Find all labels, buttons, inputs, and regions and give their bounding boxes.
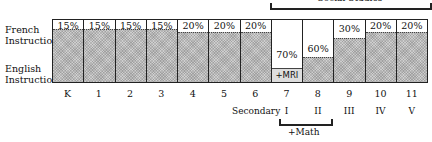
value-label: 60% (303, 43, 333, 54)
bar-column: 15% (53, 20, 84, 82)
value-label: 30% (334, 23, 364, 34)
secondary-label: Secondary (232, 106, 280, 117)
secondary-tick: III (334, 106, 365, 116)
value-label: 20% (178, 20, 208, 31)
math-bracket (279, 119, 333, 126)
value-label: 20% (241, 20, 271, 31)
value-label: 20% (366, 20, 396, 31)
value-label: 15% (84, 20, 114, 31)
english-segment (84, 29, 114, 82)
value-label: 20% (209, 20, 239, 31)
english-segment (397, 32, 427, 82)
x-tick: 3 (146, 88, 177, 99)
value-label: 15% (147, 20, 177, 31)
bar-column: 15% (147, 20, 178, 82)
english-label: English Instruction (5, 63, 51, 85)
x-tick: 2 (115, 88, 146, 99)
value-label: 15% (116, 20, 146, 31)
x-tick: 10 (365, 88, 396, 99)
value-label: 15% (53, 20, 83, 31)
bar-column: 30% (334, 20, 365, 82)
english-segment (303, 57, 333, 82)
secondary-tick: V (396, 106, 427, 116)
social-studies-bracket (270, 3, 432, 10)
english-segment (178, 32, 208, 82)
english-segment (366, 32, 396, 82)
x-tick: 7 (271, 88, 302, 99)
secondary-tick: IV (365, 106, 396, 116)
value-label: 70% (272, 49, 302, 60)
secondary-tick: II (302, 106, 333, 116)
x-tick: 4 (177, 88, 208, 99)
bar-column: 15% (116, 20, 147, 82)
x-tick: 5 (209, 88, 240, 99)
bar-column: 20% (366, 20, 397, 82)
english-segment (209, 32, 239, 82)
english-segment (334, 38, 364, 82)
english-segment (53, 29, 83, 82)
bar-column: 60% (303, 20, 334, 82)
bar-column: 20% (178, 20, 209, 82)
bar-column: 20% (397, 20, 427, 82)
english-segment (116, 29, 146, 82)
value-label: 20% (397, 20, 427, 31)
x-tick: 6 (240, 88, 271, 99)
english-segment (241, 32, 271, 82)
x-tick: 9 (334, 88, 365, 99)
bar-column: 15% (84, 20, 115, 82)
x-tick: 8 (302, 88, 333, 99)
bar-column: 20% (241, 20, 272, 82)
x-tick: K (52, 88, 83, 99)
social-studies-label: Social Studies (310, 0, 390, 4)
chart-grid: 15%15%15%15%20%20%20%70%+MRI60%30%20%20% (52, 19, 428, 83)
bar-column: 20% (209, 20, 240, 82)
french-label: French Instruction (5, 24, 51, 46)
x-tick: 1 (83, 88, 114, 99)
english-segment (147, 29, 177, 82)
math-label: +Math (288, 127, 320, 138)
mri-box: +MRI (272, 68, 302, 82)
x-tick: 11 (396, 88, 427, 99)
bar-column: 70%+MRI (272, 20, 303, 82)
